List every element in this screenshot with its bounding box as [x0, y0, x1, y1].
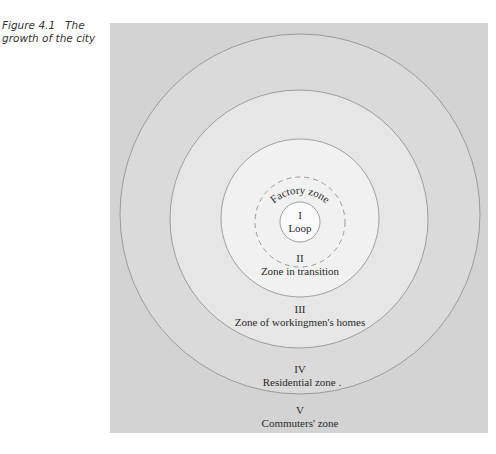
- zone-i-numeral: I: [298, 209, 302, 221]
- zone-v-numeral: V: [296, 404, 304, 416]
- zone-iii-numeral: III: [295, 303, 306, 315]
- zone-iii-name: Zone of workingmen's homes: [235, 316, 366, 328]
- zone-iv-numeral: IV: [294, 363, 306, 375]
- zone-ii-numeral: II: [296, 252, 304, 264]
- zone-iv-name: Residential zone .: [263, 376, 342, 388]
- concentric-zone-diagram: Factory zone I Loop II Zone in transitio…: [0, 0, 496, 454]
- zone-i-name: Loop: [288, 222, 312, 234]
- zone-ii-name: Zone in transition: [261, 265, 340, 277]
- zone-v-name: Commuters' zone: [262, 417, 339, 429]
